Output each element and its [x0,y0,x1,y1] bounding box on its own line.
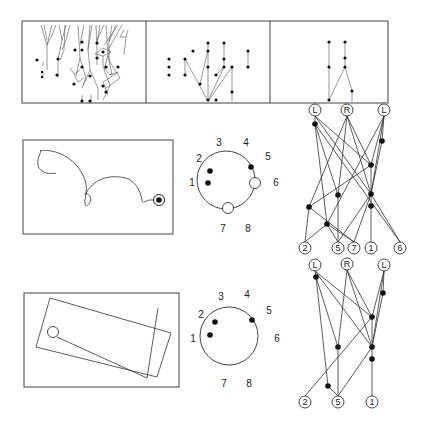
clock-bottom: 1 2 3 4 5 6 7 8 [190,289,280,389]
figure-canvas: 1 2 3 4 5 6 7 8 1 2 3 4 5 6 7 8 [0,0,425,422]
tree-top-roots: L R L [309,104,390,116]
clock-top-label-3: 3 [216,137,222,148]
vertical-cut-line [147,308,158,378]
tree-bottom-roots: L R L [309,258,390,271]
clock-top-open-7 [223,203,234,214]
tree-top-root-L1-label: L [312,105,317,115]
clock-bottom-label-6: 6 [274,333,280,344]
tree-top-leaf-5: 5 [335,243,340,253]
tree-bottom-root-R-label: R [344,259,351,269]
tree-bottom-leaf-2: 2 [302,397,307,407]
tree-top-root-R-label: R [344,105,351,115]
clock-top-dot-1 [205,180,211,186]
medium-tree-nodes [167,41,249,101]
tree-top-root-L2-label: L [381,105,386,115]
clock-bottom-label-7: 7 [221,378,227,389]
tree-top-leaf-2: 2 [302,243,307,253]
clock-top-circle [197,151,255,209]
tree-bottom-leaf-1: 1 [369,397,374,407]
top-panels [22,21,388,103]
tree-bottom-root-L2-label: L [381,260,386,270]
clock-top-label-8: 8 [245,223,251,234]
clock-top-dot-5 [248,164,254,170]
clock-top-dot-2 [207,168,213,174]
clock-bottom-label-3: 3 [218,291,224,302]
clock-bottom-dot-5 [249,317,255,323]
dense-tree-panel [35,25,128,103]
target-dot [156,197,162,203]
tree-top-leaves: 2 5 7 1 6 [299,242,406,254]
clock-top: 1 2 3 4 5 6 7 8 [189,137,279,234]
clock-top-label-7: 7 [220,223,226,234]
tree-top-leaf-6: 6 [397,243,402,253]
clock-top-label-5: 5 [265,151,271,162]
tree-bottom-root-L1-label: L [312,260,317,270]
tree-top-leaf-7: 7 [351,243,356,253]
medium-tree-panel [167,41,249,101]
clock-top-label-6: 6 [273,177,279,188]
clock-top-label-2: 2 [196,153,202,164]
tree-bottom-leaf-5: 5 [335,397,340,407]
tree-bottom-leaves: 2 5 1 [299,396,378,408]
clock-bottom-dot-2 [212,319,218,325]
clock-bottom-label-5: 5 [266,305,272,316]
clock-bottom-label-4: 4 [244,289,250,300]
clock-bottom-label-2: 2 [198,309,204,320]
clock-bottom-dot-1 [207,332,213,338]
sparse-tree-nodes [327,40,353,101]
diagonal-line [57,337,147,378]
sparse-tree-panel [327,40,353,102]
clock-top-label-4: 4 [243,137,249,148]
clock-bottom-label-8: 8 [246,378,252,389]
clock-bottom-label-1: 1 [190,333,196,344]
clock-top-label-1: 1 [189,177,195,188]
trajectory-path [38,150,155,205]
clock-top-open-6 [250,178,261,189]
trajectory-frame [23,140,173,234]
tree-bottom: L R L 2 5 1 [299,258,390,408]
tree-top-leaf-1: 1 [368,243,373,253]
trajectory-panel [23,140,173,234]
tree-top: L R L 2 5 7 1 6 [299,104,406,254]
small-circle [48,327,59,338]
rectangles-panel [24,293,179,387]
rotated-rectangle [36,298,171,377]
